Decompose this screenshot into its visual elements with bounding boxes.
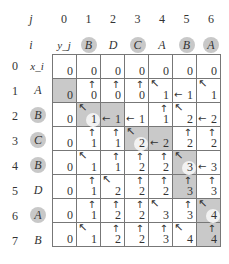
j-index: 6 [202,12,220,26]
cell-value: 1 [163,113,169,125]
cell-value: 1 [115,161,121,173]
table-cell: 0 [53,127,77,151]
table-row: 0↑1↑1↖2←2↑2↑2 [53,127,221,151]
table-cell: ↑2 [101,199,125,223]
table-cell: ↖4 [197,199,221,223]
cell-value: 0 [139,65,145,77]
j-index: 3 [129,12,147,26]
x-char: B [29,233,47,247]
cell-value: 2 [163,161,169,173]
table-cell: ↖2 [101,175,125,199]
table-row: 0↖1↑1↑2↑2↖3←3 [53,151,221,175]
y-char: B [80,38,98,52]
table-cell: ←2 [149,127,173,151]
table-cell: ↑1 [77,199,101,223]
table-cell: ↑1 [77,175,101,199]
table-cell: ↑3 [173,175,197,199]
cell-value: 2 [163,185,169,197]
i-index: 3 [6,134,24,148]
table-cell: ↑2 [125,199,149,223]
table-cell: 0 [149,55,173,79]
table-cell: 0 [53,199,77,223]
table-cell: 0 [77,55,101,79]
cell-value: 2 [211,137,217,149]
cell-value: 1 [91,137,97,149]
table-cell: ↖1 [149,79,173,103]
table-row: 0↑0↑0↑0↖1←1↖1 [53,79,221,103]
table-cell: ↖2 [173,103,197,127]
cell-value: 1 [187,89,193,101]
table-cell: ↑0 [125,79,149,103]
cell-value: 1 [115,113,121,125]
cell-value: 4 [211,233,217,245]
table-row: 0↑1↖2↑2↑2↑3↑3 [53,175,221,199]
y-char: A [202,38,220,52]
table-row: 0↖1↑2↑2↑3↖4↑4 [53,223,221,247]
table-cell: ↑1 [101,127,125,151]
cell-value: 2 [115,209,121,221]
arrow-left-icon: ← [174,90,182,100]
table-cell: 0 [53,103,77,127]
table-cell: ↑2 [125,223,149,247]
table-cell: ↑4 [197,223,221,247]
cell-value: 1 [91,209,97,221]
cell-value: 1 [91,113,97,125]
i-axis-label: i [22,38,40,52]
cell-value: 0 [187,65,193,77]
cell-value: 0 [211,65,217,77]
cell-value: 0 [67,65,73,77]
cell-value: 3 [211,185,217,197]
arrow-left-icon: ← [198,114,206,124]
i-index: 2 [6,109,24,123]
table-cell: ↑2 [173,127,197,151]
cell-value: 3 [187,161,193,173]
arrow-up-left-icon: ↖ [174,223,183,233]
cell-value: 2 [163,137,169,149]
cell-value: 3 [163,209,169,221]
table-cell: 0 [197,55,221,79]
table-cell: ←1 [125,103,149,127]
table-cell: ↑3 [173,199,197,223]
table-cell: ↑1 [77,127,101,151]
table-cell: ↑2 [125,175,149,199]
cell-value: 3 [187,185,193,197]
cell-value: 2 [139,209,145,221]
y-char: B [178,38,196,52]
arrow-left-icon: ← [150,138,158,148]
arrow-up-left-icon: ↖ [150,79,159,89]
table-cell: ↑2 [149,151,173,175]
table-cell: ←1 [101,103,125,127]
table-cell: ↑2 [125,151,149,175]
table-cell: 0 [53,175,77,199]
table-cell: 0 [101,55,125,79]
lcs-table: 00000000↑0↑0↑0↖1←1↖10↖1←1←1↑1↖2←20↑1↑1↖2… [52,54,221,247]
cell-value: 3 [211,161,217,173]
x-char: B [29,158,47,172]
j-index: 1 [80,12,98,26]
table-cell: ↖4 [173,223,197,247]
y-label: y_j [55,38,73,52]
cell-value: 0 [67,89,73,101]
arrow-left-icon: ← [126,114,134,124]
arrow-up-left-icon: ↖ [78,103,87,113]
table-cell: ←2 [197,103,221,127]
cell-value: 2 [187,137,193,149]
arrow-up-left-icon: ↖ [126,127,135,137]
x-char: C [29,133,47,147]
cell-value: 2 [139,137,145,149]
x-char: D [29,183,47,197]
table-cell: ↑0 [77,79,101,103]
cell-value: 2 [139,161,145,173]
cell-value: 0 [115,89,121,101]
cell-value: 0 [67,185,73,197]
table-cell: 0 [173,55,197,79]
table-row: 0000000 [53,55,221,79]
cell-value: 2 [115,185,121,197]
table-cell: ←1 [173,79,197,103]
cell-value: 2 [139,185,145,197]
j-index: 2 [104,12,122,26]
table-cell: ↖3 [149,199,173,223]
cell-value: 1 [211,89,217,101]
table-cell: ↖1 [197,79,221,103]
arrow-up-left-icon: ↖ [150,199,159,209]
